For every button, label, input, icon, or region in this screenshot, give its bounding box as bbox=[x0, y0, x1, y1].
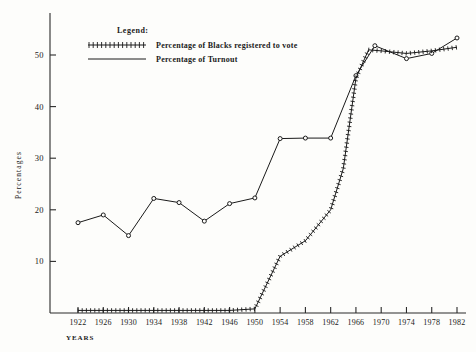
registration-hatch-mark bbox=[341, 168, 345, 169]
x-tick-label: 1934 bbox=[145, 318, 162, 327]
registration-hatch-mark bbox=[353, 84, 357, 85]
registration-hatch-mark bbox=[351, 97, 355, 98]
registration-hatch-mark bbox=[347, 126, 351, 127]
x-tick-label: 1978 bbox=[423, 318, 440, 327]
registration-hatch-mark bbox=[340, 171, 344, 172]
legend-label-registration: Percentage of Blacks registered to vote bbox=[156, 41, 298, 50]
x-tick-label: 1954 bbox=[272, 318, 289, 327]
registration-hatch-mark bbox=[448, 46, 449, 50]
legend-swatch-registration bbox=[88, 42, 146, 48]
registration-hatch-mark bbox=[348, 122, 352, 123]
registration-line bbox=[78, 47, 457, 310]
turnout-data-point bbox=[373, 44, 377, 48]
x-tick-label: 1938 bbox=[171, 318, 188, 327]
x-tick-label: 1974 bbox=[398, 318, 415, 327]
turnout-data-point bbox=[152, 196, 156, 200]
y-axis-ticks bbox=[50, 55, 56, 261]
x-axis-tick-labels: 1922192619301934193819421946195019541958… bbox=[70, 318, 466, 327]
turnout-data-point bbox=[455, 36, 459, 40]
x-tick-label: 1930 bbox=[120, 318, 137, 327]
registration-hatch-mark bbox=[444, 47, 445, 51]
registration-hatch-mark bbox=[452, 46, 453, 50]
x-tick-label: 1946 bbox=[221, 318, 238, 327]
registration-hatch-mark bbox=[344, 151, 348, 152]
y-axis-tick-labels: 1020304050 bbox=[35, 50, 44, 266]
registration-hatch-mark bbox=[339, 175, 343, 176]
turnout-data-point bbox=[228, 202, 232, 206]
y-tick-label: 10 bbox=[35, 256, 44, 266]
x-tick-label: 1966 bbox=[348, 318, 365, 327]
y-tick-label: 30 bbox=[35, 153, 44, 163]
registration-hatch-mark bbox=[349, 109, 353, 110]
x-tick-label: 1982 bbox=[449, 318, 466, 327]
turnout-data-point bbox=[76, 221, 80, 225]
turnout-line bbox=[78, 38, 457, 236]
registration-hatch-mark bbox=[351, 101, 355, 102]
registration-hatch-mark bbox=[350, 105, 354, 106]
x-tick-label: 1950 bbox=[246, 318, 263, 327]
y-axis-title: Percentages bbox=[14, 151, 23, 199]
legend-label-turnout: Percentage of Turnout bbox=[156, 55, 238, 64]
line-chart-canvas: 1020304050 19221926193019341938194219461… bbox=[0, 0, 476, 352]
registration-hatch-mark bbox=[342, 164, 346, 165]
registration-hatch-mark bbox=[456, 45, 457, 49]
turnout-data-point bbox=[278, 137, 282, 141]
turnout-data-point bbox=[127, 234, 131, 238]
series-turnout bbox=[76, 36, 459, 238]
chart-figure: 1020304050 19221926193019341938194219461… bbox=[0, 0, 476, 352]
registration-hatch-mark bbox=[348, 118, 352, 119]
registration-hatch-mark bbox=[439, 48, 440, 52]
x-tick-label: 1926 bbox=[95, 318, 112, 327]
registration-hatch-mark bbox=[343, 155, 347, 156]
registration-hatch-mark bbox=[332, 199, 336, 200]
x-tick-label: 1962 bbox=[322, 318, 339, 327]
turnout-data-point bbox=[404, 57, 408, 61]
turnout-data-point bbox=[202, 219, 206, 223]
registration-hatch-mark bbox=[344, 147, 348, 148]
y-tick-label: 40 bbox=[35, 102, 44, 112]
registration-hatch-mark bbox=[349, 114, 353, 115]
axes-group bbox=[50, 13, 466, 313]
registration-hatch-mark bbox=[334, 191, 338, 192]
turnout-data-point bbox=[303, 136, 307, 140]
registration-hatch-mark bbox=[346, 130, 350, 131]
registration-hatch-mark bbox=[342, 159, 346, 160]
y-tick-label: 20 bbox=[35, 205, 44, 215]
registration-hatch-mark bbox=[336, 183, 340, 184]
registration-hatch-mark bbox=[338, 179, 342, 180]
registration-hatch-mark bbox=[329, 208, 333, 209]
registration-hatch-mark bbox=[352, 93, 356, 94]
x-tick-label: 1922 bbox=[70, 318, 87, 327]
turnout-data-point bbox=[101, 213, 105, 217]
turnout-data-point bbox=[329, 136, 333, 140]
registration-hatch-mark bbox=[335, 187, 339, 188]
registration-hatch-mark bbox=[333, 195, 337, 196]
registration-hatch-mark bbox=[435, 48, 436, 52]
x-tick-label: 1942 bbox=[196, 318, 213, 327]
x-tick-label: 1958 bbox=[297, 318, 314, 327]
y-tick-label: 50 bbox=[35, 50, 44, 60]
legend-title: Legend: bbox=[117, 26, 149, 35]
registration-hatch-mark bbox=[330, 204, 334, 205]
turnout-data-point bbox=[177, 201, 181, 205]
registration-hatch-mark bbox=[352, 89, 356, 90]
turnout-data-point bbox=[253, 196, 257, 200]
legend-block: Legend: Percentage of Blacks registered … bbox=[88, 26, 298, 64]
registration-hatch-mark bbox=[353, 80, 357, 81]
series-registration bbox=[78, 45, 457, 312]
x-axis-title: YEARS bbox=[66, 334, 94, 342]
registration-hatch-mark bbox=[345, 143, 349, 144]
registration-hatch-mark bbox=[345, 139, 349, 140]
x-tick-label: 1970 bbox=[373, 318, 390, 327]
registration-hatch-mark bbox=[346, 134, 350, 135]
